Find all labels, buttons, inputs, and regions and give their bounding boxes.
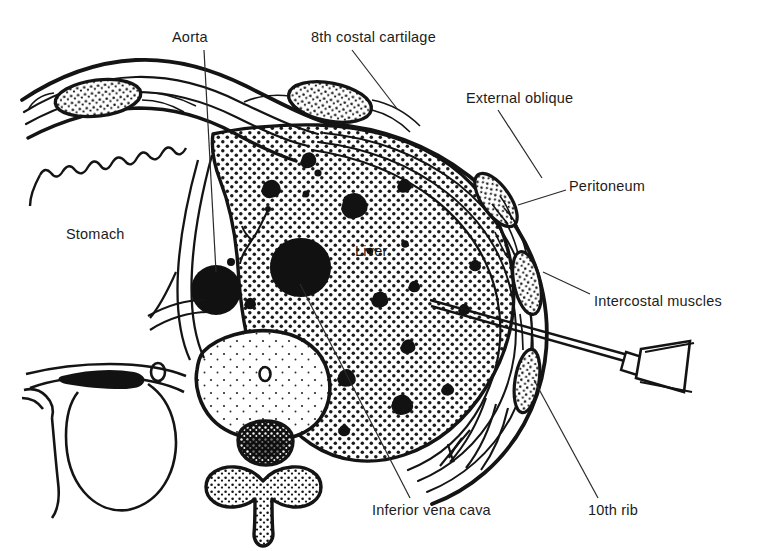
left-small-vessel	[151, 363, 165, 381]
label-aorta: Aorta	[172, 30, 208, 45]
label-inferior-vena-cava: Inferior vena cava	[372, 503, 491, 518]
stomach-rugae-wall	[30, 147, 186, 206]
small-vessel	[227, 258, 235, 266]
label-10th-rib: 10th rib	[588, 503, 638, 518]
aorta-lumen	[191, 265, 241, 315]
label-peritoneum: Peritoneum	[569, 179, 645, 194]
anatomical-figure: Aorta 8th costal cartilage External obli…	[0, 0, 762, 551]
spinous-process	[206, 467, 321, 546]
leader-peritoneum	[518, 190, 566, 205]
stomach-cavity	[178, 155, 213, 360]
label-external-oblique: External oblique	[466, 91, 573, 106]
label-8th-costal-cartilage: 8th costal cartilage	[311, 30, 436, 45]
anatomy-diagram	[0, 0, 762, 551]
portal-branch-origin	[265, 206, 271, 212]
leader-intercostal	[543, 272, 590, 294]
rib-upper-left	[53, 75, 143, 121]
label-liver: Liver	[355, 244, 387, 259]
costal-cartilage-8	[285, 75, 375, 128]
leader-external-oblique	[498, 110, 542, 178]
label-stomach: Stomach	[66, 227, 125, 242]
label-intercostal-muscles: Intercostal muscles	[594, 294, 722, 309]
spinal-canal	[238, 421, 293, 465]
ivc-lumen	[270, 238, 331, 297]
left-adrenal-vessel	[59, 370, 145, 389]
rib-10	[510, 348, 544, 415]
leader-tenth-rib	[534, 380, 598, 498]
